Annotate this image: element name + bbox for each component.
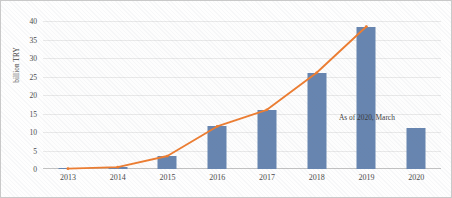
- y-axis-tick-labels: 0510152025303540: [1, 21, 452, 169]
- y-axis-tick-label: 15: [9, 109, 37, 118]
- y-axis-tick-label: 10: [9, 128, 37, 137]
- y-axis-tick-label: 20: [9, 91, 37, 100]
- x-axis-tick-label: 2020: [386, 173, 446, 182]
- x-axis-tick-labels: 20132014201520162017201820192020: [43, 171, 441, 191]
- chart-annotation: As of 2020, March: [339, 113, 395, 122]
- y-axis-tick-label: 25: [9, 72, 37, 81]
- chart-figure: billion TRY 0510152025303540 20132014201…: [0, 0, 452, 198]
- y-axis-tick-label: 30: [9, 54, 37, 63]
- y-axis-tick-label: 0: [9, 165, 37, 174]
- y-axis-tick-label: 40: [9, 17, 37, 26]
- y-axis-tick-label: 35: [9, 35, 37, 44]
- y-axis-tick-label: 5: [9, 146, 37, 155]
